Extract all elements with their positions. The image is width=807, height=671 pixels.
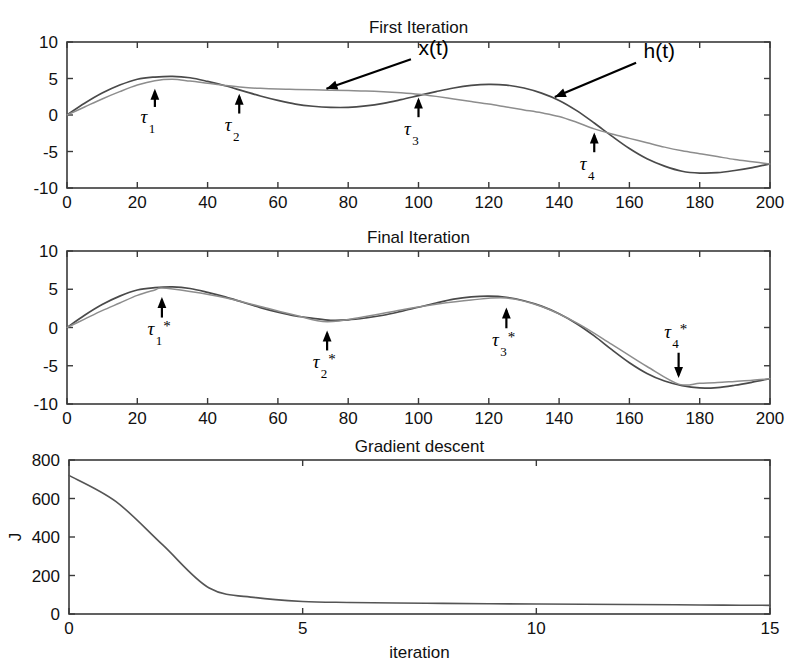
y-tick-label: 400 xyxy=(32,528,60,547)
x-tick-label: 60 xyxy=(268,409,287,428)
tau-symbol: τ xyxy=(147,318,155,339)
tau-subscript: 4 xyxy=(672,336,679,351)
x-axis-label: iteration xyxy=(389,643,449,662)
x-tick-label: 200 xyxy=(756,193,784,212)
annotation-arrow-ht xyxy=(555,63,636,97)
x-tick-label: 160 xyxy=(615,409,643,428)
x-tick-label: 100 xyxy=(404,409,432,428)
tau-arrowhead xyxy=(158,297,167,308)
x-tick-label: 180 xyxy=(686,193,714,212)
y-axis-label: J xyxy=(6,533,25,542)
y-tick-label: -10 xyxy=(33,179,58,198)
tau-label-1-star: τ1* xyxy=(147,318,170,348)
signal-label-xt: x(t) xyxy=(419,36,449,59)
x-tick-label: 0 xyxy=(64,619,73,638)
x-tick-label: 20 xyxy=(128,193,147,212)
x-tick-label: 60 xyxy=(268,193,287,212)
tau-subscript: 4 xyxy=(588,168,595,183)
curve-ht xyxy=(67,76,770,173)
y-tick-label: 0 xyxy=(51,605,60,624)
panel-title-3: Gradient descent xyxy=(355,437,485,456)
x-tick-label: 120 xyxy=(475,193,503,212)
panel-title-1: First Iteration xyxy=(369,18,468,37)
tau-label-3-star: τ3* xyxy=(492,329,515,359)
tau-subscript: 1 xyxy=(156,333,163,348)
x-tick-label: 80 xyxy=(339,193,358,212)
y-tick-label: 600 xyxy=(32,490,60,509)
x-tick-label: 40 xyxy=(198,193,217,212)
multi-panel-figure: First Iteration0204060801001201401601802… xyxy=(0,0,807,671)
tau-label-4-star: τ4* xyxy=(664,321,687,351)
tau-subscript: 2 xyxy=(233,129,240,144)
tau-arrowhead xyxy=(323,331,332,342)
tau-symbol: τ xyxy=(140,106,148,127)
tau-star: * xyxy=(328,351,336,367)
x-tick-label: 5 xyxy=(298,619,307,638)
x-tick-label: 10 xyxy=(527,619,546,638)
curve-J xyxy=(69,475,770,605)
tau-subscript: 1 xyxy=(149,121,156,136)
tau-symbol: τ xyxy=(492,329,500,350)
tau-subscript: 3 xyxy=(412,133,419,148)
tau-star: * xyxy=(163,318,171,334)
figure-container: First Iteration0204060801001201401601802… xyxy=(0,0,807,671)
tau-arrowhead xyxy=(235,94,244,105)
x-tick-label: 120 xyxy=(475,409,503,428)
tau-symbol: τ xyxy=(313,351,321,372)
tau-arrowhead xyxy=(674,367,683,378)
tau-subscript: 2 xyxy=(321,366,328,381)
tau-subscript: 3 xyxy=(500,344,507,359)
x-tick-label: 100 xyxy=(404,193,432,212)
panel-1: First Iteration0204060801001201401601802… xyxy=(33,18,784,212)
panel-2: Final Iteration0204060801001201401601802… xyxy=(33,228,784,428)
tau-star: * xyxy=(680,321,688,337)
y-tick-label: -5 xyxy=(43,143,58,162)
x-tick-label: 40 xyxy=(198,409,217,428)
x-tick-label: 180 xyxy=(686,409,714,428)
tau-label-3: τ3 xyxy=(404,118,419,148)
tau-symbol: τ xyxy=(225,114,233,135)
tau-arrowhead xyxy=(590,133,599,144)
tau-star: * xyxy=(508,329,516,345)
y-tick-label: 5 xyxy=(49,70,58,89)
y-tick-label: 0 xyxy=(49,106,58,125)
x-tick-label: 200 xyxy=(756,409,784,428)
x-tick-label: 140 xyxy=(545,409,573,428)
x-tick-label: 160 xyxy=(615,193,643,212)
panel-title-2: Final Iteration xyxy=(367,228,470,247)
annotation-arrowhead xyxy=(555,89,567,98)
tau-label-1: τ1 xyxy=(140,106,155,136)
x-tick-label: 0 xyxy=(62,409,71,428)
tau-arrowhead xyxy=(502,308,511,319)
y-tick-label: 10 xyxy=(39,33,58,52)
tau-label-4: τ4 xyxy=(580,153,595,183)
tau-label-2-star: τ2* xyxy=(313,351,336,381)
y-tick-label: 5 xyxy=(49,280,58,299)
y-tick-label: 0 xyxy=(49,319,58,338)
tau-symbol: τ xyxy=(580,153,588,174)
curve-xt xyxy=(67,79,770,164)
x-tick-label: 15 xyxy=(761,619,780,638)
y-tick-label: 10 xyxy=(39,242,58,261)
tau-label-2: τ2 xyxy=(225,114,240,144)
tau-arrowhead xyxy=(414,97,423,108)
tau-symbol: τ xyxy=(664,321,672,342)
plot-frame-3 xyxy=(69,460,770,614)
x-tick-label: 80 xyxy=(339,409,358,428)
panel-3: Gradient descent0510150200400600800itera… xyxy=(6,437,779,662)
x-tick-label: 20 xyxy=(128,409,147,428)
x-tick-label: 0 xyxy=(62,193,71,212)
tau-symbol: τ xyxy=(404,118,412,139)
y-tick-label: -10 xyxy=(33,395,58,414)
annotation-arrowhead xyxy=(326,81,338,90)
tau-arrowhead xyxy=(150,89,159,100)
x-tick-label: 140 xyxy=(545,193,573,212)
signal-label-ht: h(t) xyxy=(643,39,675,62)
y-tick-label: -5 xyxy=(43,357,58,376)
y-tick-label: 200 xyxy=(32,567,60,586)
y-tick-label: 800 xyxy=(32,451,60,470)
annotation-arrow-xt xyxy=(326,59,411,89)
